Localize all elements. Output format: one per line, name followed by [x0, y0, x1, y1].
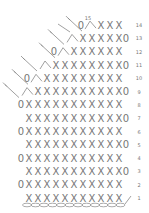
- single-crochet-symbol: X: [80, 153, 87, 164]
- single-crochet-symbol: X: [35, 139, 42, 150]
- single-crochet-symbol: X: [116, 73, 123, 84]
- chain-symbol: 0: [24, 73, 30, 84]
- single-crochet-symbol: X: [71, 166, 78, 177]
- chain-symbol: 0: [123, 60, 129, 71]
- single-crochet-symbol: X: [71, 60, 78, 71]
- chain-symbol: 0: [123, 86, 129, 97]
- single-crochet-symbol: X: [62, 153, 69, 164]
- foundation-chain-symbol: [23, 203, 32, 207]
- single-crochet-symbol: X: [107, 153, 114, 164]
- single-crochet-symbol: X: [62, 139, 69, 150]
- single-crochet-symbol: X: [80, 166, 87, 177]
- single-crochet-symbol: X: [89, 193, 96, 204]
- row-label-3: 3: [137, 168, 140, 174]
- single-crochet-symbol: X: [26, 193, 33, 204]
- chain-symbol: 0: [18, 153, 24, 164]
- foundation-chain-symbol: [82, 203, 91, 207]
- single-crochet-symbol: X: [116, 60, 123, 71]
- single-crochet-symbol: X: [116, 179, 123, 190]
- single-crochet-symbol: X: [71, 139, 78, 150]
- single-crochet-symbol: X: [53, 60, 60, 71]
- single-crochet-symbol: X: [98, 73, 105, 84]
- row-label-12: 12: [136, 49, 142, 55]
- single-crochet-symbol: X: [53, 126, 60, 137]
- fasten-off-tail-icon: [23, 58, 37, 71]
- single-crochet-symbol: X: [98, 126, 105, 137]
- single-crochet-symbol: X: [53, 179, 60, 190]
- single-crochet-symbol: X: [89, 126, 96, 137]
- single-crochet-symbol: X: [98, 99, 105, 110]
- single-crochet-symbol: X: [80, 86, 87, 97]
- single-crochet-symbol: X: [89, 113, 96, 124]
- single-crochet-symbol: X: [62, 60, 69, 71]
- single-crochet-symbol: X: [26, 166, 33, 177]
- single-crochet-symbol: X: [80, 60, 87, 71]
- single-crochet-symbol: X: [53, 113, 60, 124]
- foundation-chain-symbol: [65, 203, 74, 207]
- row-label-15: 15: [85, 15, 91, 21]
- single-crochet-symbol: X: [107, 179, 114, 190]
- single-crochet-symbol: X: [107, 113, 114, 124]
- single-crochet-symbol: X: [53, 86, 60, 97]
- single-crochet-symbol: X: [35, 153, 42, 164]
- single-crochet-symbol: X: [71, 73, 78, 84]
- single-crochet-symbol: X: [26, 179, 33, 190]
- single-crochet-symbol: X: [44, 86, 51, 97]
- single-crochet-symbol: X: [62, 193, 69, 204]
- single-crochet-symbol: X: [35, 179, 42, 190]
- foundation-chain-symbol: [31, 203, 40, 207]
- single-crochet-symbol: X: [89, 33, 96, 44]
- single-crochet-symbol: X: [98, 153, 105, 164]
- row-label-13: 13: [136, 35, 142, 41]
- single-crochet-symbol: X: [44, 113, 51, 124]
- row-label-10: 10: [136, 75, 142, 81]
- row-label-2: 2: [137, 182, 140, 188]
- single-crochet-symbol: X: [89, 46, 96, 57]
- chain-symbol: 0: [123, 139, 129, 150]
- single-crochet-symbol: X: [53, 153, 60, 164]
- single-crochet-symbol: X: [62, 73, 69, 84]
- single-crochet-symbol: X: [53, 99, 60, 110]
- single-crochet-symbol: X: [116, 46, 123, 57]
- single-crochet-symbol: X: [107, 86, 114, 97]
- single-crochet-symbol: X: [80, 139, 87, 150]
- single-crochet-symbol: X: [116, 99, 123, 110]
- fasten-off-tail-icon: [50, 31, 64, 44]
- single-crochet-symbol: X: [89, 153, 96, 164]
- row-label-8: 8: [137, 102, 140, 108]
- single-crochet-symbol: X: [89, 166, 96, 177]
- row-label-5: 5: [137, 142, 140, 148]
- single-crochet-symbol: X: [26, 139, 33, 150]
- single-crochet-symbol: X: [62, 99, 69, 110]
- single-crochet-symbol: X: [53, 73, 60, 84]
- single-crochet-symbol: X: [26, 113, 33, 124]
- foundation-chain-symbol: [57, 203, 66, 207]
- single-crochet-symbol: X: [62, 166, 69, 177]
- single-crochet-symbol: X: [89, 73, 96, 84]
- single-crochet-symbol: X: [71, 99, 78, 110]
- single-crochet-symbol: X: [98, 60, 105, 71]
- single-crochet-symbol: X: [98, 166, 105, 177]
- row-label-6: 6: [137, 129, 140, 135]
- single-crochet-symbol: X: [89, 99, 96, 110]
- single-crochet-symbol: X: [53, 193, 60, 204]
- single-crochet-symbol: X: [107, 73, 114, 84]
- single-crochet-symbol: X: [116, 113, 123, 124]
- single-crochet-symbol: X: [98, 46, 105, 57]
- single-crochet-symbol: X: [107, 60, 114, 71]
- single-crochet-symbol: X: [35, 99, 42, 110]
- row-label-4: 4: [137, 155, 140, 161]
- foundation-chain-symbol: [99, 203, 108, 207]
- decrease-symbol: [85, 21, 90, 29]
- decrease-symbol: [67, 34, 72, 42]
- single-crochet-symbol: X: [71, 179, 78, 190]
- single-crochet-symbol: X: [35, 126, 42, 137]
- single-crochet-symbol: X: [107, 193, 114, 204]
- single-crochet-symbol: X: [35, 166, 42, 177]
- row-label-14: 14: [136, 22, 142, 28]
- single-crochet-symbol: X: [89, 179, 96, 190]
- foundation-chain-symbol: [48, 203, 57, 207]
- single-crochet-symbol: X: [107, 166, 114, 177]
- foundation-chain-symbol: [116, 203, 125, 207]
- single-crochet-symbol: X: [116, 153, 123, 164]
